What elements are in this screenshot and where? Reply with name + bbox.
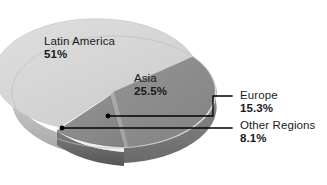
slice-label-latin-america-name: Latin America: [44, 35, 115, 48]
slice-label-other-regions-value: 8.1%: [240, 132, 315, 145]
slice-label-europe-name: Europe: [240, 89, 278, 102]
slice-label-other-regions-name: Other Regions: [240, 119, 315, 132]
slice-label-latin-america: Latin America 51%: [44, 35, 115, 61]
slice-label-other-regions: Other Regions 8.1%: [240, 119, 315, 145]
slice-label-asia-name: Asia: [134, 72, 167, 85]
slice-label-europe-value: 15.3%: [240, 102, 278, 115]
pie-chart: Latin America 51% Asia 25.5% Europe 15.3…: [0, 0, 327, 185]
slice-label-europe: Europe 15.3%: [240, 89, 278, 115]
slice-label-latin-america-value: 51%: [44, 48, 115, 61]
slice-label-asia-value: 25.5%: [134, 85, 167, 98]
slice-label-asia: Asia 25.5%: [134, 72, 167, 98]
